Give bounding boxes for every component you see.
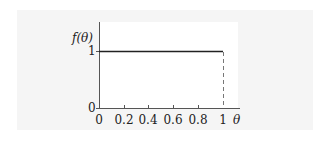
- plot-area: [100, 22, 238, 108]
- y-axis-label: f(θ): [71, 31, 93, 45]
- x-tick-label-0: 0: [95, 113, 103, 127]
- x-tick-label-1: 1: [219, 113, 227, 127]
- x-tick-label-0.6: 0.6: [163, 113, 182, 127]
- x-tick-label-0.8: 0.8: [188, 113, 207, 127]
- y-tick-label-1: 1: [88, 44, 96, 58]
- x-axis-label: θ: [233, 113, 241, 127]
- x-tick-label-0.4: 0.4: [138, 113, 157, 127]
- x-tick-label-0.2: 0.2: [114, 113, 133, 127]
- uniform-density-chart: f(θ) 1 0 0 0.2 0.4 0.6 0.8 1 θ: [0, 0, 324, 142]
